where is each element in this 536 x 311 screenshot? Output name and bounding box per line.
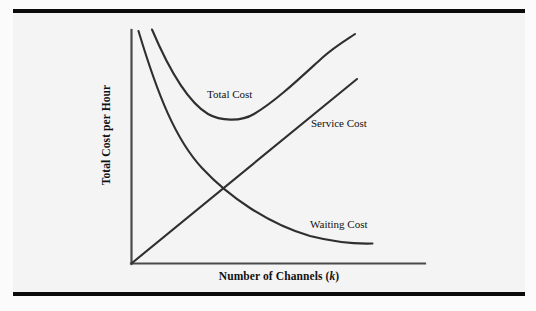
series-label-total-cost: Total Cost (207, 88, 252, 100)
y-axis-title: Total Cost per Hour (100, 85, 112, 186)
waiting-cost-curve (139, 31, 373, 244)
series-label-service-cost: Service Cost (311, 117, 367, 129)
figure-container: Total Cost per Hour Number of Channels (… (0, 0, 536, 311)
series-label-waiting-cost: Waiting Cost (310, 218, 367, 230)
x-axis-title-prefix: Number of Channels ( (219, 270, 330, 282)
chart-svg (0, 0, 536, 311)
x-axis-title: Number of Channels (k) (219, 270, 340, 282)
x-axis-title-suffix: ) (335, 270, 339, 282)
